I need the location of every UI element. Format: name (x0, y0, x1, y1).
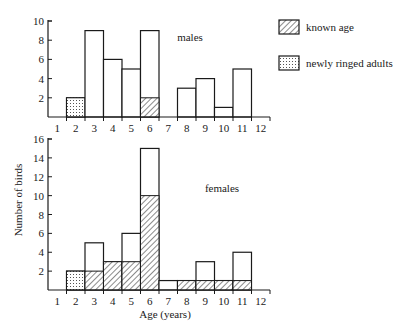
bar-total-age-9 (196, 79, 215, 117)
x-tick-label: 12 (255, 122, 266, 134)
x-tick-label: 4 (110, 122, 116, 134)
x-tick-label: 1 (55, 295, 61, 307)
bar-total-age-10 (215, 107, 234, 117)
bar-total-age-3 (85, 31, 104, 117)
legend: known agenewly ringed adults (279, 20, 393, 70)
bar-newly-ringed-age-2 (67, 98, 86, 117)
x-tick-label: 6 (147, 122, 153, 134)
bar-known-age-5 (122, 262, 141, 290)
x-tick-label: 11 (237, 295, 248, 307)
x-tick-label: 7 (166, 295, 172, 307)
y-tick-label: 6 (39, 53, 45, 65)
x-tick-label: 10 (218, 122, 230, 134)
y-tick-label: 8 (39, 34, 45, 46)
bar-newly-ringed-age-2 (67, 271, 86, 290)
x-tick-label: 3 (92, 295, 98, 307)
y-tick-label: 10 (33, 190, 45, 202)
bar-known-age-10 (215, 281, 234, 290)
x-tick-label: 2 (73, 295, 79, 307)
bar-total-age-4 (104, 59, 123, 117)
x-tick-label: 7 (166, 122, 172, 134)
x-tick-label: 5 (129, 295, 135, 307)
x-axis-title: Age (years) (139, 308, 191, 321)
y-tick-label: 12 (33, 171, 44, 183)
y-tick-label: 14 (33, 152, 45, 164)
x-tick-label: 1 (55, 122, 61, 134)
bar-known-age-3 (85, 271, 104, 290)
bar-known-age-6 (141, 98, 160, 117)
x-tick-label: 12 (255, 295, 266, 307)
legend-label: newly ringed adults (306, 57, 393, 69)
histogram-figure: 246810123456789101112males 2468101214161… (0, 0, 401, 332)
x-tick-label: 4 (110, 295, 116, 307)
x-tick-label: 8 (184, 122, 190, 134)
y-tick-label: 4 (39, 73, 45, 85)
y-tick-label: 8 (39, 209, 45, 221)
y-tick-label: 16 (33, 133, 45, 145)
panel-label-males: males (177, 31, 203, 43)
panel-label-females: females (205, 182, 239, 194)
bar-known-age-9 (196, 281, 215, 290)
x-tick-label: 2 (73, 122, 79, 134)
y-tick-label: 4 (39, 246, 45, 258)
males-panel: 246810123456789101112males (33, 15, 270, 134)
bar-total-age-8 (178, 88, 197, 117)
females-panel: 246810121416123456789101112females (33, 133, 270, 307)
bar-known-age-4 (104, 262, 123, 290)
y-tick-label: 2 (39, 92, 45, 104)
y-tick-label: 10 (33, 15, 45, 27)
bar-known-age-6 (141, 196, 160, 290)
legend-label: known age (306, 21, 354, 33)
x-tick-label: 11 (237, 122, 248, 134)
bar-known-age-8 (178, 281, 197, 290)
legend-swatch-newly-ringed (279, 56, 299, 70)
legend-swatch-known-age (279, 20, 299, 34)
bar-total-age-11 (233, 69, 252, 117)
y-tick-label: 2 (39, 265, 45, 277)
x-tick-label: 3 (92, 122, 98, 134)
x-tick-label: 10 (218, 295, 230, 307)
x-tick-label: 5 (129, 122, 135, 134)
x-tick-label: 6 (147, 295, 153, 307)
bar-total-age-5 (122, 69, 141, 117)
x-tick-label: 9 (203, 122, 209, 134)
x-tick-label: 9 (203, 295, 209, 307)
y-axis-title: Number of birds (12, 164, 24, 237)
y-tick-label: 6 (39, 227, 45, 239)
bar-known-age-11 (233, 281, 252, 290)
x-tick-label: 8 (184, 295, 190, 307)
bar-total-age-7 (159, 281, 178, 290)
